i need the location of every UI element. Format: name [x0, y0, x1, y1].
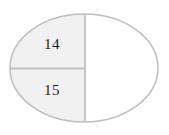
region-right-half-fill [85, 0, 169, 135]
partitioned-ellipse-diagram: 14 15 [0, 0, 169, 135]
region-lower-left-fill [0, 68, 85, 135]
figure-container: 14 15 [0, 0, 169, 135]
region-upper-left-fill [0, 0, 85, 68]
region-label-lower-left: 15 [44, 82, 60, 98]
region-label-upper-left: 14 [44, 36, 60, 52]
